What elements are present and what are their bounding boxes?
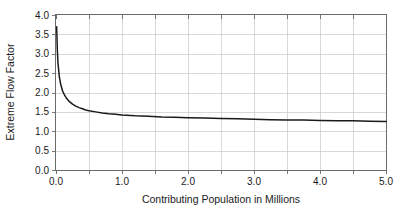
y-tick-label: 1.0 xyxy=(35,126,49,137)
y-axis-tick-labels: 0.00.51.01.52.02.53.03.54.0 xyxy=(35,10,49,176)
y-axis-title: Extreme Flow Factor xyxy=(4,43,16,140)
x-axis-title: Contributing Population in Millions xyxy=(142,193,300,205)
x-tick-label: 3.0 xyxy=(247,176,261,187)
x-tick-label: 0.0 xyxy=(49,176,63,187)
chart-container: 0.01.02.03.04.05.0 0.00.51.01.52.02.53.0… xyxy=(0,0,410,210)
y-tick-label: 2.5 xyxy=(35,68,49,79)
x-tick-label: 5.0 xyxy=(379,176,393,187)
y-tick-label: 0.5 xyxy=(35,145,49,156)
x-tick-label: 1.0 xyxy=(115,176,129,187)
y-tick-label: 0.0 xyxy=(35,165,49,176)
y-tick-label: 4.0 xyxy=(35,10,49,21)
x-tick-label: 4.0 xyxy=(313,176,327,187)
extreme-flow-factor-chart: 0.01.02.03.04.05.0 0.00.51.01.52.02.53.0… xyxy=(0,0,410,210)
x-tick-label: 2.0 xyxy=(181,176,195,187)
y-tick-label: 3.0 xyxy=(35,48,49,59)
y-tick-label: 2.0 xyxy=(35,87,49,98)
y-tick-label: 1.5 xyxy=(35,106,49,117)
y-tick-label: 3.5 xyxy=(35,29,49,40)
